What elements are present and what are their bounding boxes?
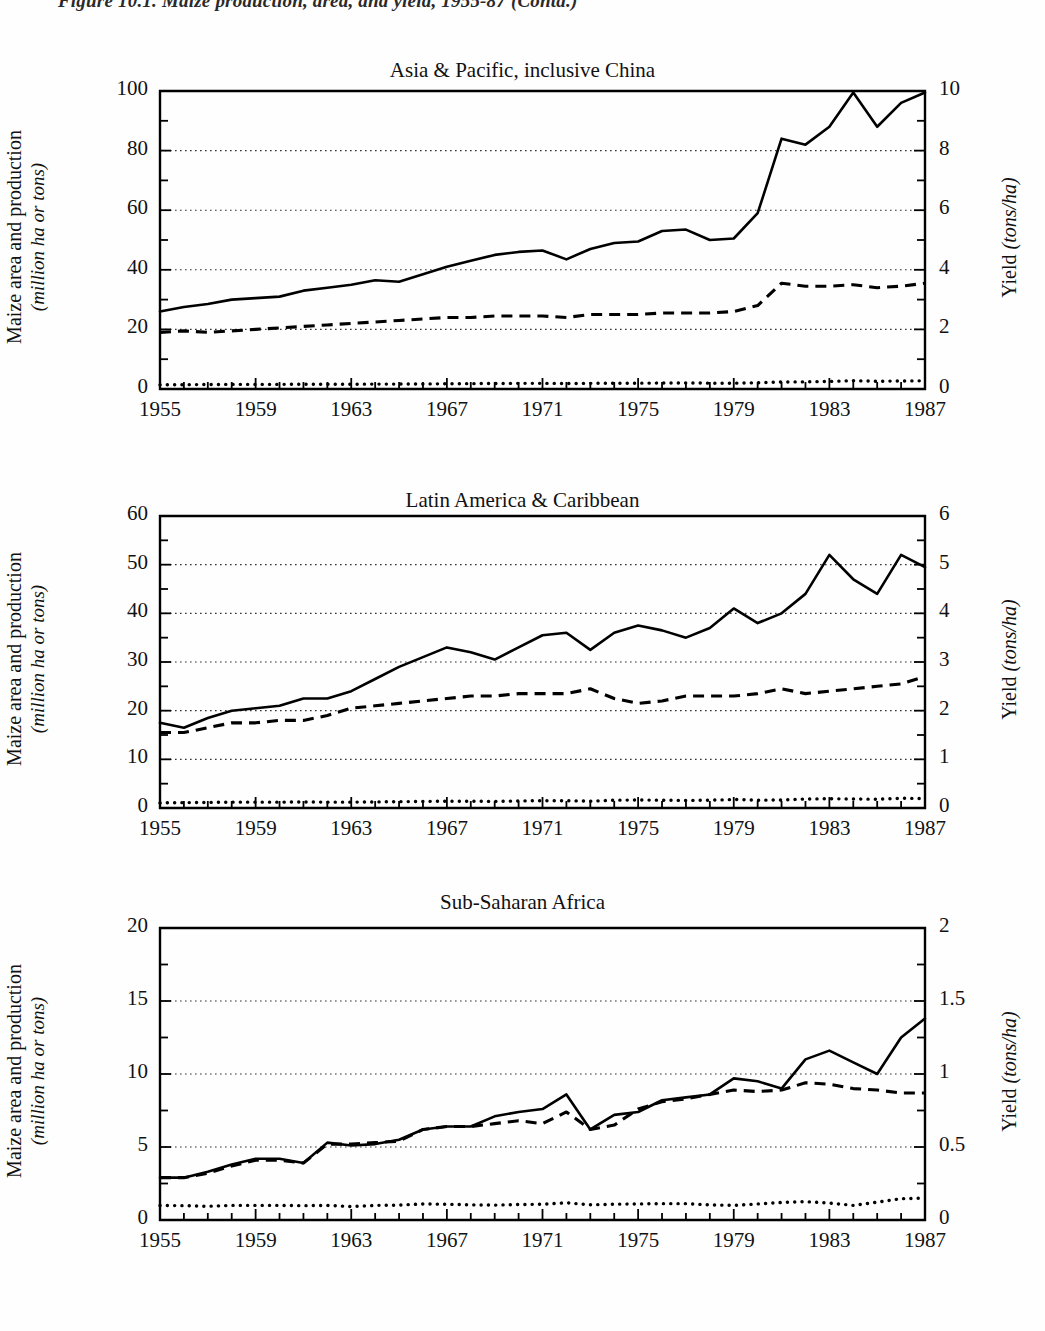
figure-caption: Figure 10.1. Maize production, area, and… [58, 0, 577, 12]
y-axis-label-right-unit: (tons/ha) [998, 599, 1020, 671]
y-axis-tick-left: 10 [68, 744, 148, 769]
y-axis-label-left-line1: Maize area and production [3, 964, 25, 1178]
series-dashed [160, 1083, 925, 1178]
chart-panel-sub-saharan-africa: Sub-Saharan Africa 0510152000.511.521955… [0, 890, 1045, 1290]
y-axis-label-right-unit: (tons/ha) [998, 177, 1020, 249]
y-axis-label-left-line1: Maize area and production [3, 552, 25, 766]
x-axis-tick: 1963 [301, 1228, 401, 1253]
x-axis-tick: 1983 [779, 397, 879, 422]
y-axis-tick-left: 30 [68, 647, 148, 672]
y-axis-tick-left: 15 [68, 986, 148, 1011]
x-axis-tick: 1987 [875, 397, 975, 422]
series-dashed [160, 283, 925, 332]
y-axis-label-left: Maize area and production(million ha or … [3, 906, 49, 1236]
y-axis-label-right: Yield (tons/ha) [998, 922, 1021, 1222]
y-axis-tick-left: 10 [68, 1059, 148, 1084]
y-axis-label-right: Yield (tons/ha) [998, 88, 1021, 388]
x-axis-tick: 1959 [206, 816, 306, 841]
y-axis-label-left-line2: (million ha or tons) [27, 906, 49, 1236]
y-axis-label-right-unit: (tons/ha) [998, 1011, 1020, 1083]
x-axis-tick: 1963 [301, 397, 401, 422]
chart-panel-latin-america: Latin America & Caribbean 01020304050600… [0, 488, 1045, 860]
x-axis-tick: 1975 [588, 816, 688, 841]
y-axis-label-right-main: Yield [998, 1083, 1020, 1131]
y-axis-tick-left: 0 [68, 374, 148, 399]
y-axis-label-left-line1: Maize area and production [3, 130, 25, 344]
x-axis-tick: 1979 [684, 816, 784, 841]
series-solid [160, 555, 925, 728]
x-axis-tick: 1979 [684, 1228, 784, 1253]
x-axis-tick: 1983 [779, 816, 879, 841]
x-axis-tick: 1971 [493, 816, 593, 841]
x-axis-tick: 1955 [110, 816, 210, 841]
x-axis-tick: 1975 [588, 1228, 688, 1253]
y-axis-tick-left: 0 [68, 793, 148, 818]
x-axis-tick: 1987 [875, 1228, 975, 1253]
y-axis-tick-left: 5 [68, 1132, 148, 1157]
y-axis-tick-left: 100 [68, 76, 148, 101]
x-axis-tick: 1971 [493, 397, 593, 422]
y-axis-label-left-line2: (million ha or tons) [27, 72, 49, 402]
x-axis-tick: 1967 [397, 816, 497, 841]
y-axis-label-left: Maize area and production(million ha or … [3, 494, 49, 824]
x-axis-tick: 1971 [493, 1228, 593, 1253]
y-axis-label-left: Maize area and production(million ha or … [3, 72, 49, 402]
x-axis-tick: 1955 [110, 1228, 210, 1253]
series-dotted [160, 1198, 925, 1206]
x-axis-tick: 1979 [684, 397, 784, 422]
y-axis-tick-left: 20 [68, 314, 148, 339]
y-axis-tick-left: 40 [68, 598, 148, 623]
y-axis-label-right-main: Yield [998, 671, 1020, 719]
y-axis-tick-left: 20 [68, 696, 148, 721]
y-axis-label-right-main: Yield [998, 249, 1020, 297]
y-axis-tick-left: 40 [68, 255, 148, 280]
chart-panel-asia-pacific: Asia & Pacific, inclusive China 02040608… [0, 58, 1045, 438]
series-dashed [160, 677, 925, 733]
series-solid [160, 1019, 925, 1178]
chart-plot-area [0, 58, 1045, 438]
x-axis-tick: 1967 [397, 397, 497, 422]
x-axis-tick: 1967 [397, 1228, 497, 1253]
y-axis-tick-left: 60 [68, 501, 148, 526]
chart-plot-area [0, 488, 1045, 860]
y-axis-tick-left: 60 [68, 195, 148, 220]
y-axis-tick-left: 0 [68, 1205, 148, 1230]
y-axis-tick-left: 80 [68, 136, 148, 161]
x-axis-tick: 1983 [779, 1228, 879, 1253]
x-axis-tick: 1955 [110, 397, 210, 422]
x-axis-tick: 1963 [301, 816, 401, 841]
x-axis-tick: 1987 [875, 816, 975, 841]
series-solid [160, 92, 925, 311]
x-axis-tick: 1959 [206, 397, 306, 422]
x-axis-tick: 1975 [588, 397, 688, 422]
y-axis-tick-left: 20 [68, 913, 148, 938]
y-axis-label-left-line2: (million ha or tons) [27, 494, 49, 824]
y-axis-tick-left: 50 [68, 550, 148, 575]
y-axis-label-right: Yield (tons/ha) [998, 510, 1021, 810]
x-axis-tick: 1959 [206, 1228, 306, 1253]
